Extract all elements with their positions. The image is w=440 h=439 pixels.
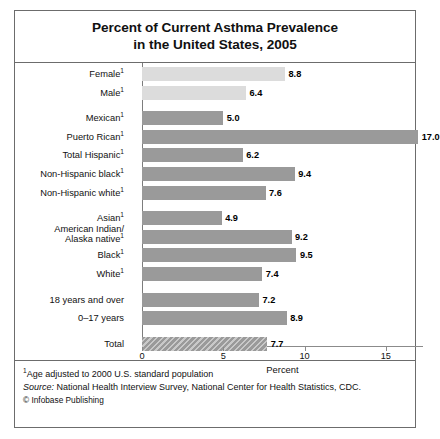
bar-value-label: 7.6 xyxy=(269,186,282,200)
bar-value-label: 5.0 xyxy=(227,111,240,125)
footnotes: 1Age adjusted to 2000 U.S. standard popu… xyxy=(15,360,415,407)
bar-value-label: 8.9 xyxy=(290,311,303,325)
category-label: American Indian/Alaska native1 xyxy=(18,225,124,244)
bar xyxy=(142,311,287,325)
category-label: White1 xyxy=(97,269,124,279)
bar xyxy=(142,111,223,125)
category-label: Black1 xyxy=(98,250,124,260)
bar-value-label: 7.7 xyxy=(271,337,284,351)
footnote-text: Age adjusted to 2000 U.S. standard popul… xyxy=(27,369,214,379)
bar-value-label: 7.2 xyxy=(263,293,276,307)
chart-title-line-1: Percent of Current Asthma Prevalence xyxy=(21,19,409,36)
source-text: National Health Interview Survey, Nation… xyxy=(57,382,361,392)
bar xyxy=(142,248,296,262)
bar xyxy=(142,130,418,144)
bar-value-label: 9.2 xyxy=(295,230,308,244)
bar xyxy=(142,148,243,162)
category-label: 0–17 years xyxy=(78,313,124,323)
bar-value-label: 4.9 xyxy=(225,211,238,225)
bar xyxy=(142,167,295,181)
category-label: 18 years and over xyxy=(50,295,124,305)
category-label: Female1 xyxy=(89,69,124,79)
chart-title: Percent of Current Asthma Prevalence in … xyxy=(15,11,415,63)
figure-frame: Percent of Current Asthma Prevalence in … xyxy=(14,10,416,428)
category-label: Asian1 xyxy=(97,213,124,223)
category-label: Non-Hispanic white1 xyxy=(40,188,124,198)
bar-value-label: 9.5 xyxy=(300,248,313,262)
bar xyxy=(142,267,262,281)
bar-value-label: 6.4 xyxy=(250,86,263,100)
category-label: Puerto Rican1 xyxy=(67,132,124,142)
bars-area: Percent 8.86.45.017.06.29.47.64.99.29.57… xyxy=(128,63,415,369)
category-label: Total xyxy=(104,339,124,349)
bar xyxy=(142,211,222,225)
bar-value-label: 6.2 xyxy=(246,148,259,162)
category-label: Male1 xyxy=(100,88,124,98)
bar xyxy=(142,186,266,200)
source-note: Source: National Health Interview Survey… xyxy=(23,381,407,394)
source-label: Source: xyxy=(23,382,54,392)
bar xyxy=(142,230,292,244)
plot-area: Female1Male1Mexican1Puerto Rican1Total H… xyxy=(15,63,415,369)
footnote-age-adjusted: 1Age adjusted to 2000 U.S. standard popu… xyxy=(23,368,407,381)
bar xyxy=(142,86,246,100)
category-label: Non-Hispanic black1 xyxy=(40,169,124,179)
bar-value-label: 9.4 xyxy=(298,167,311,181)
copyright-note: © Infobase Publishing xyxy=(23,394,407,407)
bar xyxy=(142,293,259,307)
chart-title-line-2: in the United States, 2005 xyxy=(21,36,409,53)
category-label: Mexican1 xyxy=(86,113,124,123)
bar xyxy=(142,67,285,81)
bar-value-label: 7.4 xyxy=(266,267,279,281)
bar-value-label: 8.8 xyxy=(289,67,302,81)
bar-value-label: 17.0 xyxy=(422,130,440,144)
category-label: Total Hispanic1 xyxy=(62,150,124,160)
bar xyxy=(142,337,267,351)
